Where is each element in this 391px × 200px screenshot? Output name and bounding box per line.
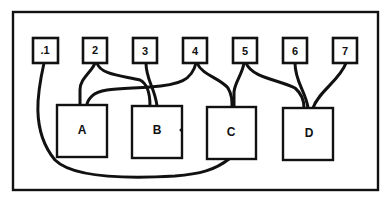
terminal-7: 7 [333,38,357,63]
module-C: C [207,107,256,159]
terminal-6-label: 6 [292,45,298,57]
module-D-label: D [305,126,314,140]
terminal-4: 4 [183,38,207,63]
module-C-label: C [227,125,236,139]
module-A: A [57,105,107,157]
terminal-2: 2 [83,38,107,63]
terminal-5-label: 5 [242,45,248,57]
wire-2-to-B [97,63,150,106]
module-B-dot [180,129,183,132]
terminal-7-label: 7 [342,45,348,57]
wire-3-to-B [146,63,157,106]
terminal-3-label: 3 [142,45,148,57]
terminal-5: 5 [233,38,257,63]
wire-5-to-C [234,63,244,107]
terminal-6: 6 [283,38,307,63]
terminal-3: 3 [133,38,157,63]
terminal-2-label: 2 [92,44,98,56]
terminal-4-label: 4 [192,45,199,57]
wire-6-to-D [295,63,308,108]
terminal-1-label: .1 [40,44,49,56]
module-B-label: B [153,123,162,137]
wire-7-to-D [313,63,346,108]
module-A-label: A [78,123,87,137]
module-D: D [283,108,333,160]
module-B: B [132,106,183,158]
wire-4-to-C [197,63,232,107]
wire-2-to-A [80,63,95,105]
terminal-1: .1 [33,38,58,63]
wiring-diagram: .1 2 3 4 5 6 7 A B C D [0,0,391,200]
